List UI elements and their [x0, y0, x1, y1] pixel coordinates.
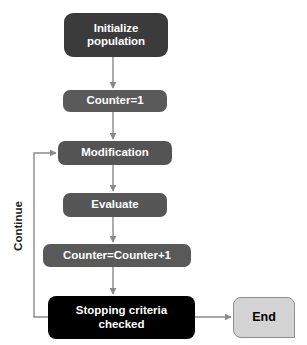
node-evaluate[interactable]: Evaluate: [63, 193, 167, 217]
node-counter-increment-label: Counter=Counter+1: [43, 249, 191, 262]
node-stopping-criteria-label: Stopping criteria checked: [48, 304, 195, 330]
node-end-label: End: [234, 310, 294, 324]
node-counter-init[interactable]: Counter=1: [63, 90, 167, 112]
node-counter-increment[interactable]: Counter=Counter+1: [43, 244, 191, 267]
node-evaluate-label: Evaluate: [63, 198, 167, 211]
node-stopping-criteria-checked[interactable]: Stopping criteria checked: [48, 296, 195, 339]
node-modification-label: Modification: [58, 146, 172, 159]
node-end[interactable]: End: [233, 297, 295, 338]
edge-loop-back-continue: [34, 153, 56, 317]
node-counter-init-label: Counter=1: [63, 94, 167, 107]
node-modification[interactable]: Modification: [58, 141, 172, 165]
flowchart-canvas: Initialize population Counter=1 Modifica…: [0, 0, 307, 345]
node-initialize-population-label: Initialize population: [64, 22, 168, 48]
node-initialize-population[interactable]: Initialize population: [64, 13, 168, 57]
edge-label-continue: Continue: [12, 196, 28, 256]
